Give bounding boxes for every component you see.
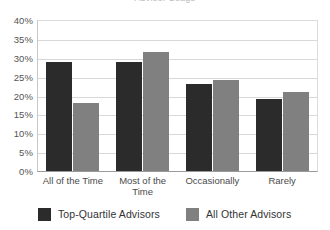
x-tick-label: Occasionally xyxy=(178,175,248,186)
bar-group xyxy=(256,20,309,171)
y-tick-label: 35% xyxy=(14,33,33,44)
legend-item: All Other Advisors xyxy=(186,206,291,222)
y-tick-label: 15% xyxy=(14,109,33,120)
bar-group xyxy=(116,20,169,171)
y-tick-label: 20% xyxy=(14,90,33,101)
x-tick-label: All of the Time xyxy=(38,175,108,186)
y-tick-label: 30% xyxy=(14,52,33,63)
bar-group xyxy=(186,20,239,171)
grouped-bar-chart: Advisor Usage 40%35%30%25%20%15%10%5%0% … xyxy=(0,0,330,230)
bar xyxy=(256,99,282,171)
y-tick-label: 5% xyxy=(19,147,33,158)
y-tick-label: 25% xyxy=(14,71,33,82)
legend-label: Top-Quartile Advisors xyxy=(58,208,160,220)
chart-legend: Top-Quartile AdvisorsAll Other Advisors xyxy=(38,206,328,222)
bars-layer xyxy=(38,20,317,171)
bar-group xyxy=(46,20,99,171)
y-tick-label: 10% xyxy=(14,128,33,139)
clipped-chart-title-text: Advisor Usage xyxy=(134,0,195,3)
bar xyxy=(143,52,169,171)
y-axis: 40%35%30%25%20%15%10%5%0% xyxy=(0,20,33,172)
y-tick-label: 40% xyxy=(14,15,33,26)
bar xyxy=(283,92,309,171)
bar xyxy=(73,103,99,171)
bar xyxy=(213,80,239,171)
bar xyxy=(116,62,142,171)
legend-item: Top-Quartile Advisors xyxy=(38,206,160,222)
x-tick-label: Most of the Time xyxy=(108,175,178,197)
legend-label: All Other Advisors xyxy=(206,208,291,220)
legend-swatch xyxy=(38,208,51,221)
y-tick-label: 0% xyxy=(19,166,33,177)
legend-swatch xyxy=(186,208,199,221)
x-axis: All of the TimeMost of the TimeOccasiona… xyxy=(38,175,317,201)
clipped-chart-title: Advisor Usage xyxy=(0,0,330,9)
bar xyxy=(186,84,212,171)
x-tick-label: Rarely xyxy=(247,175,317,186)
bar xyxy=(46,62,72,171)
